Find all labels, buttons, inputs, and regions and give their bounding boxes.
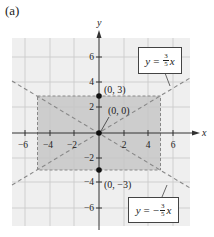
y-axis-label: y — [96, 17, 102, 28]
y-axis-arrow-icon — [97, 30, 102, 38]
y-tick-label: −2 — [84, 153, 94, 163]
point-vertex-top — [96, 93, 102, 99]
equation-lhs: y — [136, 204, 141, 216]
x-tick-label: −4 — [43, 140, 53, 150]
point-label-bottom: (0, −3) — [104, 179, 131, 191]
x-tick-label: 6 — [171, 140, 176, 150]
x-axis-label: x — [201, 127, 207, 138]
point-vertex-bottom — [96, 167, 102, 173]
x-tick-label: −2 — [67, 140, 77, 150]
point-center — [96, 130, 102, 136]
equation-variable: x — [166, 204, 171, 216]
y-tick-label: 4 — [89, 77, 94, 87]
fraction-denominator: 5 — [161, 211, 165, 218]
fraction-denominator: 5 — [164, 61, 168, 68]
y-tick-label: −4 — [84, 177, 94, 187]
asymptote-label-negative: y = − 3 5 x — [128, 197, 179, 223]
point-label-center: (0, 0) — [108, 105, 130, 117]
equation-sign: − — [153, 204, 159, 216]
x-tick-label: 2 — [122, 140, 127, 150]
x-axis-arrow-icon — [192, 131, 200, 136]
equation-fraction: 3 5 — [163, 53, 169, 68]
x-tick-label: −6 — [18, 140, 28, 150]
equation-equals: = — [153, 55, 159, 67]
equation-equals: = — [144, 204, 150, 216]
y-tick-label: 2 — [89, 102, 94, 112]
y-tick-label: 6 — [89, 52, 94, 62]
equation-variable: x — [170, 55, 175, 67]
asymptote-label-positive: y = 3 5 x — [138, 47, 182, 74]
equation-fraction: 3 5 — [160, 203, 166, 218]
y-tick-label: −6 — [84, 203, 94, 213]
equation-lhs: y — [145, 55, 150, 67]
x-tick-label: 4 — [146, 140, 151, 150]
coordinate-plane: x y −6 −4 −2 2 4 6 6 4 2 −2 −4 −6 (0, 3 — [0, 0, 214, 237]
point-label-top: (0, 3) — [104, 84, 126, 96]
